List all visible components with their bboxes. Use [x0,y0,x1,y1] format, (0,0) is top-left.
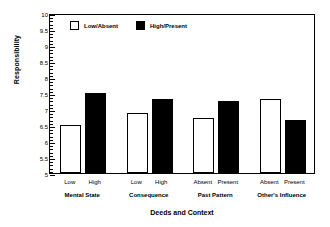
y-tick-mark [50,31,55,32]
y-minor-tick [50,25,53,26]
bar [260,99,281,173]
y-tick-mark [50,47,55,48]
y-minor-tick [50,44,53,45]
y-tick-label: 8 [26,76,48,82]
y-minor-tick [50,34,53,35]
y-tick-mark [50,15,55,16]
y-minor-tick [50,114,53,115]
bar [127,113,148,173]
y-tick-label: 9.5 [26,28,48,34]
y-minor-tick [50,89,53,90]
y-minor-tick [50,124,53,125]
y-minor-tick [50,37,53,38]
y-minor-tick [50,108,53,109]
y-tick-mark [50,143,55,144]
y-minor-tick [50,156,53,157]
y-minor-tick [50,149,53,150]
bar [218,101,239,173]
y-minor-tick [50,50,53,51]
bar [285,120,306,173]
x-tick-label: Absent [260,179,279,185]
legend-item: Low/Absent [70,21,118,30]
y-minor-tick [50,66,53,67]
y-minor-tick [50,73,53,74]
y-tick-label: 7.5 [26,92,48,98]
x-tick-label: Low [64,179,75,185]
y-minor-tick [50,101,53,102]
x-tick-label: High [89,179,101,185]
x-group-label: Mental State [65,192,100,198]
y-minor-tick [50,85,53,86]
y-tick-label: 6 [26,140,48,146]
x-tick-label: Low [131,179,142,185]
y-tick-mark [50,111,55,112]
x-group-label: Other's Influence [257,192,306,198]
bar [60,125,81,173]
y-minor-tick [50,76,53,77]
y-minor-tick [50,21,53,22]
y-minor-tick [50,165,53,166]
y-minor-tick [50,140,53,141]
y-minor-tick [50,105,53,106]
x-tick-label: Present [217,179,238,185]
y-tick-label: 5.5 [26,156,48,162]
y-tick-label: 8.5 [26,60,48,66]
x-group-label: Past Pattern [198,192,233,198]
x-tick-label: Present [284,179,305,185]
x-group-label: Consequence [129,192,168,198]
legend-label: High/Present [150,23,187,29]
bar [193,118,214,173]
legend-swatch-icon [136,21,145,30]
x-tick-label: High [155,179,167,185]
y-minor-tick [50,133,53,134]
y-minor-tick [50,146,53,147]
x-tick-label: Absent [193,179,212,185]
y-tick-label: 10 [26,12,48,18]
y-tick-label: 7 [26,108,48,114]
y-minor-tick [50,69,53,70]
legend-item: High/Present [136,21,187,30]
y-minor-tick [50,137,53,138]
bar-chart-figure: Responsibility 109.598.587.576.565.55 Lo… [0,0,330,227]
legend-swatch-icon [70,21,79,30]
legend: Low/AbsentHigh/Present [70,21,187,30]
y-minor-tick [50,153,53,154]
y-minor-tick [50,169,53,170]
y-minor-tick [50,28,53,29]
legend-label: Low/Absent [84,23,118,29]
y-tick-mark [50,127,55,128]
bar [85,93,106,173]
y-tick-mark [50,79,55,80]
y-minor-tick [50,92,53,93]
x-axis-title: Deeds and Context [49,209,315,216]
y-tick-label: 9 [26,44,48,50]
y-tick-mark [50,63,55,64]
y-tick-mark [50,159,55,160]
y-minor-tick [50,53,53,54]
y-minor-tick [50,18,53,19]
y-minor-tick [50,82,53,83]
y-axis-title: Responsibility [13,10,20,110]
y-minor-tick [50,130,53,131]
y-tick-mark [50,175,55,176]
y-tick-mark [50,95,55,96]
plot-area: 109.598.587.576.565.55 Low/AbsentHigh/Pr… [49,14,315,174]
y-minor-tick [50,57,53,58]
y-minor-tick [50,41,53,42]
y-minor-tick [50,121,53,122]
y-tick-label: 6.5 [26,124,48,130]
y-minor-tick [50,60,53,61]
y-tick-label: 5 [26,172,48,178]
y-minor-tick [50,98,53,99]
bar [152,99,173,173]
plot-inner: 109.598.587.576.565.55 Low/AbsentHigh/Pr… [50,15,314,173]
y-minor-tick [50,162,53,163]
y-minor-tick [50,117,53,118]
y-minor-tick [50,172,53,173]
